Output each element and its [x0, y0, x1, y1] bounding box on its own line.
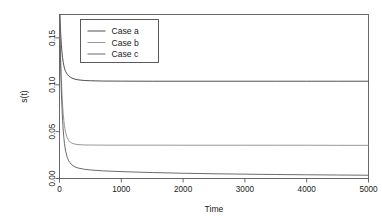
y-tick-label: 0.10 — [48, 76, 57, 92]
legend-label: Case a — [112, 26, 139, 36]
y-tick-label: 0.05 — [48, 123, 57, 139]
legend-label: Case c — [112, 49, 139, 59]
y-axis-ticks: 0.000.050.100.15 — [48, 30, 60, 187]
x-tick-label: 0 — [57, 185, 62, 194]
x-axis-label: Time — [205, 204, 224, 214]
y-tick-label: 0.15 — [48, 30, 57, 46]
y-tick-label: 0.00 — [48, 170, 57, 186]
x-axis-ticks: 010002000300040005000 — [57, 179, 378, 195]
x-tick-label: 4000 — [298, 185, 317, 194]
chart-figure: 0.000.050.100.15 010002000300040005000 C… — [0, 0, 382, 224]
legend-label: Case b — [112, 38, 139, 48]
x-tick-label: 3000 — [236, 185, 255, 194]
chart-legend: Case aCase bCase c — [81, 20, 159, 63]
x-tick-label: 5000 — [359, 185, 378, 194]
y-axis-label: s(t) — [19, 90, 29, 103]
x-tick-label: 1000 — [112, 185, 131, 194]
line-chart-plot: 0.000.050.100.15 010002000300040005000 C… — [0, 0, 382, 224]
x-tick-label: 2000 — [174, 185, 193, 194]
